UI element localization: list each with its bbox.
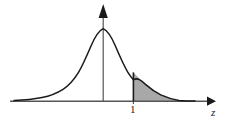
normal-distribution-figure: 1 z <box>0 0 230 129</box>
x-axis-arrowhead-icon <box>207 97 216 106</box>
y-axis-arrowhead-icon <box>99 4 108 18</box>
normal-curve-plot <box>0 0 230 129</box>
x-axis-label: z <box>211 107 215 118</box>
shaded-tail-region <box>133 72 191 101</box>
x-tick-label-1: 1 <box>130 104 136 115</box>
normal-density-curve <box>14 29 195 102</box>
